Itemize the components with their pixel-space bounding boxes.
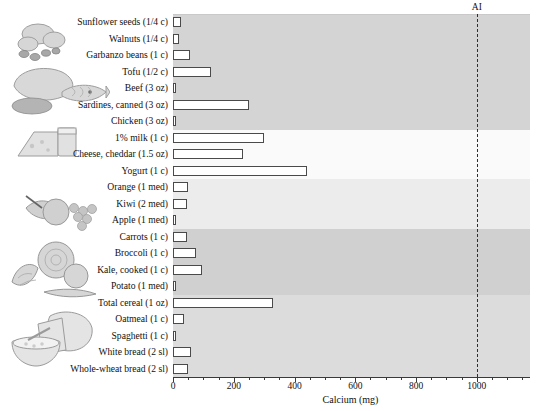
ai-reference-line: [477, 14, 478, 377]
bar: [173, 331, 176, 341]
bar: [173, 215, 176, 225]
bar: [173, 347, 191, 357]
category-label: Total cereal (1 oz): [98, 298, 168, 308]
bar: [173, 149, 243, 159]
x-tick-label: 600: [348, 381, 362, 391]
bar: [173, 83, 176, 93]
x-tick-minor: [446, 377, 447, 380]
category-label: Kiwi (2 med): [116, 199, 168, 209]
bar: [173, 199, 187, 209]
category-label: Cheese, cheddar (1.5 oz): [73, 149, 168, 159]
x-tick-minor: [279, 377, 280, 380]
x-tick-minor: [203, 377, 204, 380]
category-label: Spaghetti (1 c): [112, 331, 168, 341]
category-label: Walnuts (1/4 c): [109, 34, 168, 44]
x-tick-minor: [188, 377, 189, 380]
x-tick-label: 200: [227, 381, 241, 391]
category-label: Beef (3 oz): [125, 83, 168, 93]
bar: [173, 248, 196, 258]
category-labels: Sunflower seeds (1/4 c)Walnuts (1/4 c)Ga…: [0, 14, 171, 377]
category-label: 1% milk (1 c): [115, 133, 168, 143]
bar: [173, 364, 188, 374]
calcium-bar-chart: Sunflower seeds (1/4 c)Walnuts (1/4 c)Ga…: [0, 0, 541, 411]
bar: [173, 166, 307, 176]
x-tick-minor: [340, 377, 341, 380]
x-axis-title: Calcium (mg): [0, 394, 541, 405]
bar: [173, 298, 273, 308]
x-tick-minor: [310, 377, 311, 380]
category-label: Tofu (1/2 c): [122, 67, 168, 77]
x-tick-label: 1000: [467, 381, 486, 391]
category-label: White bread (2 sl): [98, 347, 168, 357]
x-tick-minor: [249, 377, 250, 380]
category-label: Chicken (3 oz): [111, 116, 168, 126]
bar: [173, 50, 190, 60]
category-label: Broccoli (1 c): [115, 248, 168, 258]
category-label: Orange (1 med): [107, 182, 168, 192]
x-tick-minor: [264, 377, 265, 380]
category-label: Sunflower seeds (1/4 c): [77, 17, 168, 27]
category-label: Potato (1 med): [111, 281, 168, 291]
bar: [173, 67, 211, 77]
category-label: Whole-wheat bread (2 sl): [70, 364, 168, 374]
bar: [173, 116, 176, 126]
category-label: Kale, cooked (1 c): [97, 265, 168, 275]
bar: [173, 100, 249, 110]
category-label: Carrots (1 c): [120, 232, 168, 242]
category-label: Sardines, canned (3 oz): [78, 100, 168, 110]
x-tick-minor: [370, 377, 371, 380]
x-tick-minor: [462, 377, 463, 380]
bar: [173, 265, 202, 275]
bar: [173, 232, 187, 242]
bar: [173, 133, 264, 143]
x-tick-minor: [507, 377, 508, 380]
x-tick-minor: [522, 377, 523, 380]
bar: [173, 17, 181, 27]
category-label: Apple (1 med): [112, 215, 168, 225]
bar: [173, 314, 184, 324]
x-tick-label: 400: [287, 381, 301, 391]
x-tick-minor: [431, 377, 432, 380]
x-tick-label: 800: [409, 381, 423, 391]
category-label: Yogurt (1 c): [122, 166, 168, 176]
x-tick-minor: [492, 377, 493, 380]
x-tick-label: 0: [171, 381, 176, 391]
x-tick-minor: [401, 377, 402, 380]
bar: [173, 281, 176, 291]
x-tick-minor: [386, 377, 387, 380]
category-label: Garbanzo beans (1 c): [86, 50, 168, 60]
x-tick-minor: [325, 377, 326, 380]
x-tick-minor: [219, 377, 220, 380]
bar: [173, 34, 179, 44]
bar: [173, 182, 188, 192]
ai-reference-label: AI: [472, 2, 482, 12]
category-label: Oatmeal (1 c): [115, 314, 168, 324]
